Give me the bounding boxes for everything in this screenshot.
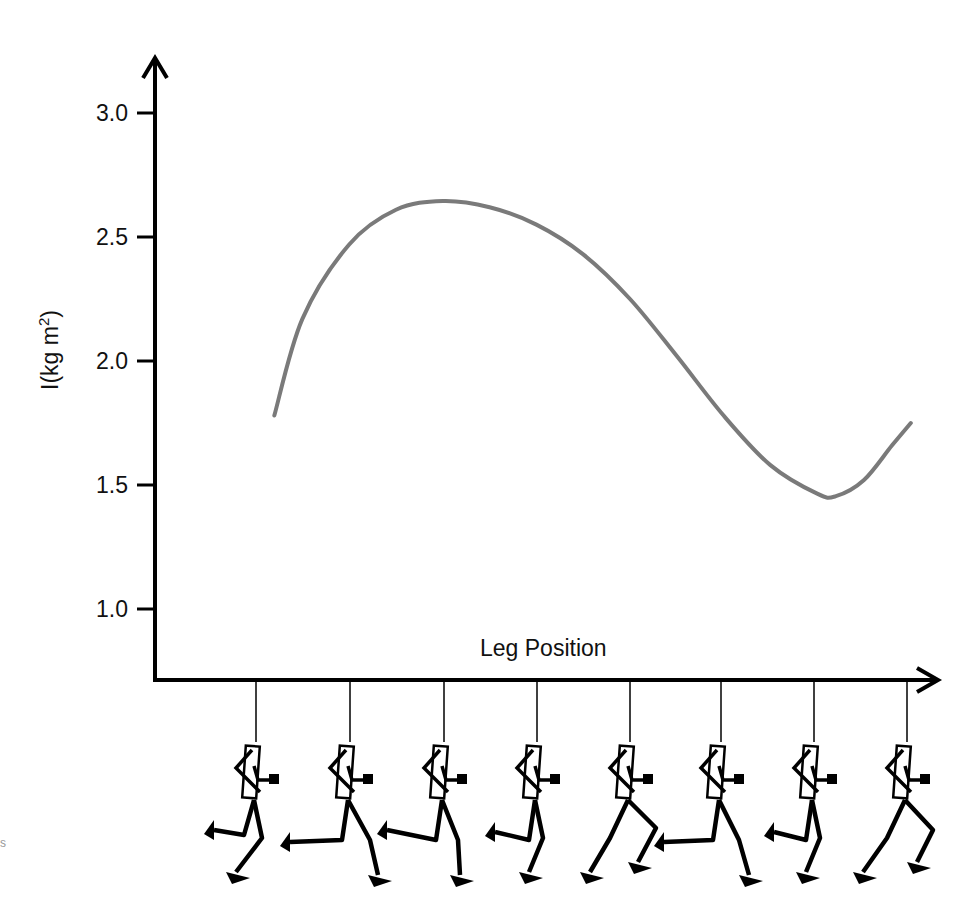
runner-figure-icon: [485, 746, 560, 884]
y-axis: [143, 58, 167, 682]
y-tick-label: 2.5: [96, 224, 128, 250]
y-tick-label: 1.0: [96, 596, 128, 622]
inertia-chart: 1.01.52.02.53.0 Leg Position I(kg m2): [0, 0, 975, 911]
y-tick-label: 3.0: [96, 100, 128, 126]
runner-poses: [204, 746, 933, 887]
x-ticks: [256, 680, 907, 742]
y-tick-label: 1.5: [96, 472, 128, 498]
y-axis-title: I(kg m2): [35, 310, 63, 390]
x-axis: [153, 668, 938, 692]
runner-figure-icon: [580, 746, 656, 884]
runner-figure-icon: [764, 746, 837, 884]
runner-figure-icon: [853, 746, 933, 884]
y-tick-label: 2.0: [96, 348, 128, 374]
x-axis-title: Leg Position: [480, 635, 607, 661]
runner-figure-icon: [280, 746, 392, 887]
y-ticks: 1.01.52.02.53.0: [96, 100, 155, 622]
inertia-curve: [274, 201, 910, 498]
runner-figure-icon: [204, 746, 279, 884]
runner-figure-icon: [654, 746, 763, 887]
runner-figure-icon: [377, 746, 474, 887]
